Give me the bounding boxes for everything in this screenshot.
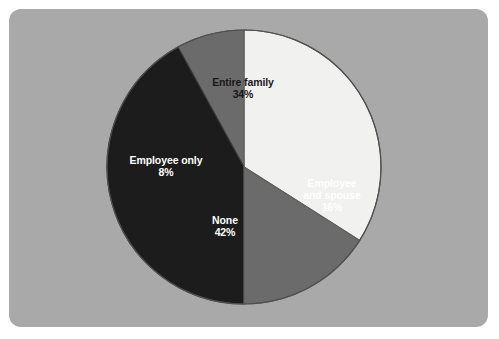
pie-label-employee-and-spouse-name-line1: Employee — [303, 178, 360, 190]
pie-label-employee-and-spouse: Employee and spouse 16% — [303, 178, 360, 213]
pie-label-employee-only: Employee only 8% — [130, 155, 203, 179]
figure-container: Entire family 34% Employee and spouse 16… — [0, 0, 499, 339]
pie-label-entire-family: Entire family 34% — [212, 77, 274, 101]
pie-label-none: None 42% — [212, 215, 238, 239]
pie-label-employee-and-spouse-value: 16% — [303, 202, 360, 214]
pie-label-entire-family-name: Entire family — [212, 77, 274, 89]
pie-label-none-value: 42% — [212, 227, 238, 239]
pie-label-employee-only-value: 8% — [130, 167, 203, 179]
pie-label-employee-and-spouse-name-line2: and spouse — [303, 190, 360, 202]
pie-label-employee-only-name: Employee only — [130, 155, 203, 167]
pie-chart-svg — [0, 0, 499, 339]
pie-label-none-name: None — [212, 215, 238, 227]
pie-label-entire-family-value: 34% — [212, 89, 274, 101]
pie-chart: Entire family 34% Employee and spouse 16… — [0, 0, 499, 339]
